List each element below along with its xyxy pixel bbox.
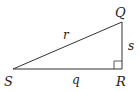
side-label-r: r [63, 28, 70, 42]
vertex-label-q: Q [115, 5, 126, 20]
vertex-label-s: S [4, 74, 13, 89]
vertex-label-r: R [115, 74, 126, 89]
side-label-s: s [128, 39, 134, 53]
side-label-q: q [72, 73, 80, 87]
right-angle-marker [114, 61, 122, 69]
triangle-diagram: Q R S q r s [0, 0, 139, 91]
